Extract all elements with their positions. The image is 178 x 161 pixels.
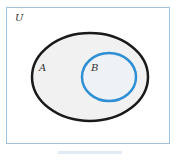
set-b-label: B [91,62,98,73]
set-a-label: A [39,62,46,73]
universe-label: U [15,12,23,23]
set-b-ellipse [82,53,136,101]
caption-faint [58,151,122,154]
venn-diagram [0,0,178,161]
